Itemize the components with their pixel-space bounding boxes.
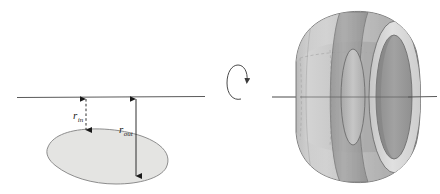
r-in-dimension: rin [73, 99, 86, 130]
rotation-marker [227, 65, 247, 99]
r-in-subscript: in [78, 116, 84, 124]
cross-section-region [47, 129, 168, 184]
axis-of-revolution-left [17, 97, 205, 98]
revolution-figure: rin rout [0, 0, 440, 194]
r-out-subscript: out [124, 130, 134, 138]
cross-section-panel: rin rout [17, 97, 205, 185]
axis-of-revolution-right-stub [408, 97, 437, 98]
r-in-label: rin [73, 109, 84, 124]
figure-canvas: rin rout [0, 0, 440, 194]
rotation-arrow-icon [227, 65, 247, 99]
solid-panel [272, 11, 437, 182]
